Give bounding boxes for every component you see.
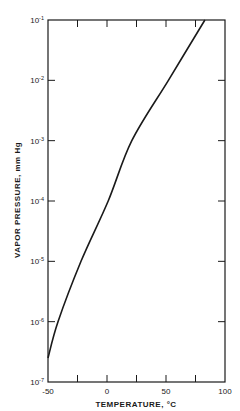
plot-frame	[48, 20, 225, 382]
y-axis-ticks: 10-710-610-510-410-310-210-1	[30, 15, 225, 387]
x-axis-ticks: -50050100	[42, 20, 232, 396]
x-axis-label: TEMPERATURE, °C	[95, 400, 176, 409]
y-axis-label: VAPOR PRESSURE, mm Hg	[13, 142, 22, 258]
vapor-pressure-chart: -50050100 10-710-610-510-410-310-210-1 T…	[0, 0, 240, 411]
x-tick-label: -50	[42, 387, 54, 396]
y-tick-label: 10-7	[30, 377, 44, 387]
y-tick-label: 10-6	[30, 317, 44, 327]
y-tick-label: 10-3	[30, 136, 44, 146]
y-tick-label: 10-2	[30, 75, 44, 85]
y-tick-label: 10-5	[30, 256, 44, 266]
y-tick-label: 10-4	[30, 196, 44, 206]
x-tick-label: 100	[218, 387, 232, 396]
y-tick-label: 10-1	[30, 15, 44, 25]
x-tick-label: 0	[105, 387, 110, 396]
vapor-pressure-curve	[48, 20, 205, 358]
x-tick-label: 50	[162, 387, 171, 396]
